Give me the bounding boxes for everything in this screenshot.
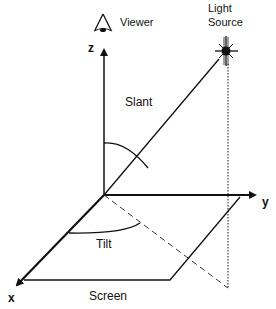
viewer-label: Viewer [120, 17, 153, 28]
screen-label: Screen [89, 290, 127, 302]
screen-plane [24, 197, 240, 280]
light-source-label-line2: Source [208, 17, 243, 28]
tilt-label: Tilt [96, 238, 112, 250]
light-source-label-line1: Light [208, 3, 232, 14]
slant-arc [104, 143, 148, 168]
diagram-canvas: Viewer Light Source Slant Tilt Screen z … [0, 0, 276, 309]
sun-burst-icon [215, 36, 238, 66]
eye-icon [94, 14, 112, 32]
x-axis [17, 195, 104, 285]
diagram-svg [0, 0, 276, 309]
light-ray [104, 59, 219, 195]
y-axis-label: y [262, 196, 269, 208]
tilt-arc [69, 223, 140, 233]
slant-label: Slant [125, 96, 152, 108]
ground-projection-dashed [104, 195, 228, 288]
x-axis-label: x [8, 292, 15, 304]
z-axis-label: z [88, 42, 94, 54]
